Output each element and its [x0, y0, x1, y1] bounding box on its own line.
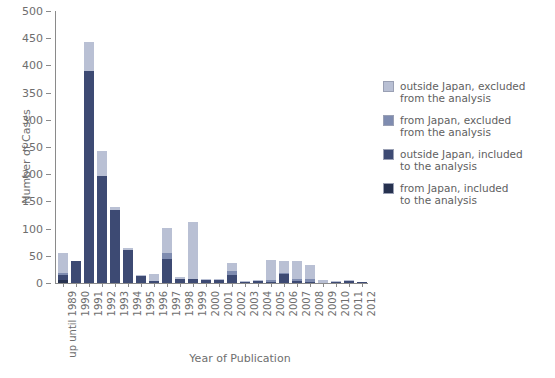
- bar-stack[interactable]: [58, 253, 68, 283]
- bar-segment[interactable]: [162, 259, 172, 283]
- y-tick-mark: [46, 283, 51, 284]
- x-tick-label: up until 1989: [67, 291, 78, 358]
- bar-segment[interactable]: [71, 261, 81, 283]
- bar-stack[interactable]: [305, 265, 315, 283]
- legend-item[interactable]: outside Japan, includedto the analysis: [383, 148, 553, 172]
- y-tick-mark: [46, 174, 51, 175]
- bar-segment[interactable]: [97, 176, 107, 283]
- bar-segment[interactable]: [227, 275, 237, 283]
- bar-stack[interactable]: [97, 151, 107, 283]
- bar-segment[interactable]: [97, 151, 107, 176]
- x-tick-label: 2005: [275, 291, 286, 316]
- x-tick-mark: [336, 283, 337, 287]
- x-tick-mark: [63, 283, 64, 287]
- bar-segment[interactable]: [162, 228, 172, 253]
- bar-segment[interactable]: [305, 265, 315, 279]
- x-tick-label: 1999: [197, 291, 208, 316]
- legend-item[interactable]: from Japan, excludedfrom the analysis: [383, 114, 553, 138]
- x-tick-mark: [271, 283, 272, 287]
- x-tick-label: 2004: [262, 291, 273, 316]
- x-axis-title: Year of Publication: [100, 352, 380, 365]
- x-tick-label: 1996: [158, 291, 169, 316]
- x-tick-label: 1993: [119, 291, 130, 316]
- x-tick-mark: [219, 283, 220, 287]
- legend-label-line2: to the analysis: [400, 194, 508, 206]
- y-tick-mark: [46, 229, 51, 230]
- x-tick-label: 2012: [366, 291, 377, 316]
- y-tick-label: 400: [22, 59, 43, 72]
- bar-stack[interactable]: [84, 42, 94, 283]
- x-tick-label: 1994: [132, 291, 143, 316]
- y-tick-mark: [46, 65, 51, 66]
- legend-label-line2: from the analysis: [400, 126, 511, 138]
- bar-segment[interactable]: [84, 42, 94, 71]
- y-tick-mark: [46, 201, 51, 202]
- x-tick-label: 1995: [145, 291, 156, 316]
- bar-stack[interactable]: [162, 228, 172, 283]
- bar-stack[interactable]: [136, 275, 146, 283]
- x-tick-mark: [128, 283, 129, 287]
- legend: outside Japan, excludedfrom the analysis…: [383, 80, 553, 216]
- x-tick-label: 2002: [236, 291, 247, 316]
- x-tick-mark: [102, 283, 103, 287]
- bar-stack[interactable]: [71, 261, 81, 283]
- bar-segment[interactable]: [227, 263, 237, 271]
- x-tick-mark: [362, 283, 363, 287]
- x-tick-mark: [258, 283, 259, 287]
- legend-label-line2: from the analysis: [400, 92, 525, 104]
- legend-item[interactable]: from Japan, includedto the analysis: [383, 182, 553, 206]
- bar-stack[interactable]: [188, 222, 198, 283]
- x-tick-mark: [76, 283, 77, 287]
- x-tick-label: 1998: [184, 291, 195, 316]
- bar-segment[interactable]: [279, 261, 289, 272]
- bar-segment[interactable]: [266, 260, 276, 281]
- x-tick-label: 2008: [314, 291, 325, 316]
- legend-swatch-icon: [383, 149, 394, 160]
- y-tick-label: 250: [22, 141, 43, 154]
- y-tick-label: 50: [29, 249, 43, 262]
- x-tick-mark: [310, 283, 311, 287]
- y-tick-label: 500: [22, 5, 43, 18]
- y-tick-mark: [46, 93, 51, 94]
- x-tick-label: 2000: [210, 291, 221, 316]
- bar-stack[interactable]: [123, 248, 133, 283]
- bar-stack[interactable]: [110, 207, 120, 283]
- bar-stack[interactable]: [279, 261, 289, 283]
- bar-segment[interactable]: [149, 274, 159, 281]
- legend-swatch-icon: [383, 115, 394, 126]
- legend-item[interactable]: outside Japan, excludedfrom the analysis: [383, 80, 553, 104]
- bar-segment[interactable]: [110, 210, 120, 283]
- x-tick-mark: [323, 283, 324, 287]
- x-tick-mark: [193, 283, 194, 287]
- y-tick-mark: [46, 38, 51, 39]
- y-tick-label: 300: [22, 113, 43, 126]
- bar-segment[interactable]: [292, 261, 302, 279]
- x-tick-mark: [115, 283, 116, 287]
- bar-stack[interactable]: [266, 260, 276, 283]
- bar-segment[interactable]: [279, 274, 289, 283]
- bar-stack[interactable]: [149, 274, 159, 283]
- x-tick-label: 2007: [301, 291, 312, 316]
- bar-segment[interactable]: [58, 253, 68, 273]
- bar-stack[interactable]: [292, 261, 302, 283]
- legend-label-line1: from Japan, included: [400, 182, 508, 194]
- x-tick-mark: [245, 283, 246, 287]
- y-tick-label: 0: [36, 277, 43, 290]
- x-tick-mark: [206, 283, 207, 287]
- x-tick-mark: [349, 283, 350, 287]
- bar-segment[interactable]: [188, 222, 198, 279]
- x-tick-label: 1997: [171, 291, 182, 316]
- x-tick-label: 2006: [288, 291, 299, 316]
- bar-segment[interactable]: [123, 250, 133, 283]
- legend-swatch-icon: [383, 183, 394, 194]
- x-tick-label: 2001: [223, 291, 234, 316]
- x-tick-label: 1991: [93, 291, 104, 316]
- bar-segment[interactable]: [84, 71, 94, 283]
- bar-stack[interactable]: [227, 263, 237, 283]
- legend-label-line1: outside Japan, excluded: [400, 80, 525, 92]
- legend-swatch-icon: [383, 81, 394, 92]
- x-tick-label: 2003: [249, 291, 260, 316]
- x-tick-mark: [167, 283, 168, 287]
- legend-label-line1: from Japan, excluded: [400, 114, 511, 126]
- x-tick-label: 1990: [80, 291, 91, 316]
